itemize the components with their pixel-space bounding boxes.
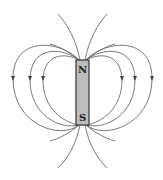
field-line-top-right [85,14,107,60]
field-line-bottom-left [58,125,80,168]
arrow-down-icon [120,76,124,81]
field-line-bottom-right [85,125,107,168]
bar-magnet-field-diagram: N S [0,0,163,180]
arrow-down-icon [150,76,154,81]
arrow-down-icon [133,76,137,81]
arrow-down-icon [41,76,45,81]
south-pole-label: S [79,112,86,123]
field-line-left-inner [43,56,79,125]
bar-magnet: N S [76,60,89,125]
field-line-left-middle [30,51,79,126]
field-line-top-left [58,14,80,60]
bottom-open-field-lines [50,125,115,168]
arrow-down-icon [28,76,32,81]
left-field-loops [13,45,79,130]
right-field-loops [86,45,152,130]
field-line-left-outer [13,45,79,130]
top-open-field-lines [50,14,115,60]
field-line-right-middle [86,51,135,126]
north-pole-label: N [78,64,87,75]
arrow-down-icon [11,76,15,81]
field-line-right-inner [86,56,122,125]
field-line-right-outer [86,45,152,130]
